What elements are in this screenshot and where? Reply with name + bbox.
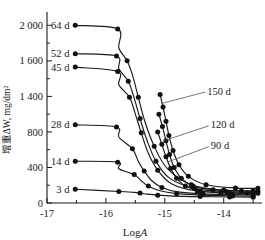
- data-point: [138, 191, 143, 196]
- data-point: [115, 69, 120, 74]
- data-point: [155, 193, 160, 198]
- data-point: [132, 172, 137, 177]
- y-tick-label: 400: [27, 162, 43, 173]
- data-point: [136, 95, 141, 100]
- data-point: [125, 58, 130, 63]
- data-point: [138, 116, 143, 121]
- data-point: [114, 125, 119, 130]
- x-tick-label: -15: [158, 208, 172, 219]
- data-point: [115, 26, 120, 31]
- data-point: [160, 124, 165, 129]
- data-point: [204, 182, 209, 187]
- data-point: [155, 168, 160, 173]
- data-point: [255, 186, 260, 191]
- y-tick-label: 800: [27, 127, 43, 138]
- data-point: [115, 160, 120, 165]
- curve-layer: [75, 25, 258, 197]
- axis-lines: [47, 12, 262, 203]
- data-point: [186, 174, 191, 179]
- data-point: [172, 165, 177, 170]
- data-point: [179, 176, 184, 181]
- series-label-64-d: 64 d: [51, 20, 70, 31]
- y-axis-title-text: 增重ΔW, mg/dm²: [1, 85, 12, 154]
- x-axis-title-log: Log: [123, 226, 141, 238]
- data-point: [155, 129, 160, 134]
- data-point: [174, 191, 179, 196]
- data-point: [161, 105, 166, 110]
- series-label-52-d: 52 d: [51, 48, 70, 59]
- y-tick-label: 2 000: [19, 20, 43, 31]
- x-tick-label: -16: [99, 208, 113, 219]
- y-tick-label: 0: [38, 198, 43, 209]
- y-tick-label: 1 600: [19, 55, 43, 66]
- data-point: [191, 184, 196, 189]
- data-point: [158, 92, 163, 97]
- data-point: [166, 133, 171, 138]
- data-point: [171, 148, 176, 153]
- data-point: [211, 187, 216, 192]
- series-label-45-d: 45 d: [51, 62, 70, 73]
- data-point: [163, 119, 168, 124]
- data-point: [176, 162, 181, 167]
- data-point: [73, 51, 78, 56]
- data-point: [245, 191, 250, 196]
- series-label-28-d: 28 d: [51, 119, 70, 130]
- weight-gain-vs-loga-chart: 04008001 4001 6002 000-17-16-15-14 150 d…: [0, 0, 265, 240]
- series-curve-150-d: [160, 95, 258, 189]
- data-point: [116, 189, 121, 194]
- x-tick-label: -14: [217, 208, 232, 219]
- data-point: [127, 95, 132, 100]
- data-point: [139, 130, 144, 135]
- data-point: [73, 65, 78, 70]
- data-point: [114, 53, 119, 58]
- data-point: [156, 112, 161, 117]
- y-axis-title: 增重ΔW, mg/dm²: [1, 85, 12, 154]
- series-label-3-d: 3 d: [56, 184, 70, 195]
- y-tick-label: 1 400: [19, 91, 43, 102]
- callout-leader-150-d: [161, 92, 205, 103]
- data-point: [183, 184, 188, 189]
- callout-label-90-d: 90 d: [211, 140, 230, 151]
- data-point: [159, 142, 164, 147]
- label-layer: 64 d52 d45 d28 d14 d3 d: [51, 20, 70, 195]
- x-axis-title-a: A: [140, 226, 148, 238]
- series-label-14-d: 14 d: [51, 156, 70, 167]
- data-point: [152, 144, 157, 149]
- data-point: [73, 159, 78, 164]
- data-point: [251, 188, 256, 193]
- data-point: [73, 23, 78, 28]
- data-point: [142, 169, 147, 174]
- data-point: [239, 189, 244, 194]
- x-axis-title-text: LogA: [123, 226, 148, 238]
- x-tick-label: -17: [40, 208, 54, 219]
- data-point: [198, 189, 203, 194]
- callout-label-120-d: 120 d: [211, 119, 235, 130]
- data-point: [233, 186, 238, 191]
- data-point: [153, 159, 158, 164]
- data-point: [218, 190, 223, 195]
- data-point: [130, 146, 135, 151]
- chart-figure: 04008001 4001 6002 000-17-16-15-14 150 d…: [0, 0, 265, 240]
- data-point-layer: [73, 23, 261, 200]
- data-point: [73, 122, 78, 127]
- data-point: [126, 79, 131, 84]
- data-point: [167, 152, 172, 157]
- data-point: [73, 187, 78, 192]
- callout-leader-120-d: [164, 126, 209, 141]
- x-axis-title: LogA: [123, 226, 148, 238]
- data-point: [174, 176, 179, 181]
- data-point: [146, 184, 151, 189]
- callout-label-150-d: 150 d: [207, 86, 231, 97]
- data-point: [159, 185, 164, 190]
